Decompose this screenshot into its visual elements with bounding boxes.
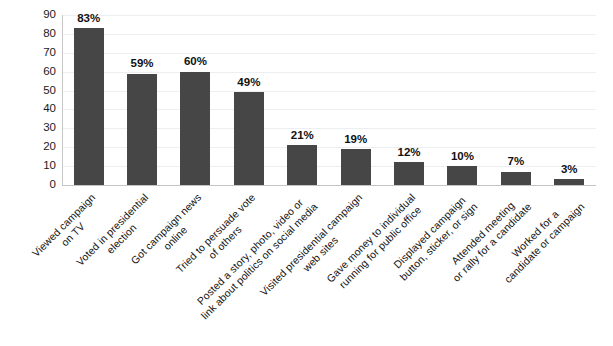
bar[interactable] xyxy=(234,92,264,185)
bar[interactable] xyxy=(180,72,210,185)
bar-group: 21% xyxy=(276,15,329,185)
x-axis-label-slot: Voted in presidentialelection xyxy=(115,189,168,190)
y-axis-tick-label: 40 xyxy=(10,104,56,116)
bar-value-label: 19% xyxy=(344,134,367,146)
x-axis-category-labels: Viewed campaignon TVVoted in presidentia… xyxy=(62,189,596,339)
x-axis-label-slot: Displayed campaignbutton, sticker, or si… xyxy=(436,189,489,190)
bar-group: 19% xyxy=(329,15,382,185)
bar[interactable] xyxy=(127,74,157,185)
bar-group: 10% xyxy=(436,15,489,185)
y-axis-tick-label: 50 xyxy=(10,85,56,97)
x-axis-label-slot: Got campaign newsonline xyxy=(169,189,222,190)
x-axis-label-slot: Worked for acandidate or campaign xyxy=(543,189,596,190)
bar-value-label: 7% xyxy=(508,156,525,168)
y-axis-tick-label: 80 xyxy=(10,28,56,40)
x-axis-label-slot: Visited presidential campaignweb sites xyxy=(329,189,382,190)
bar-value-label: 59% xyxy=(131,58,154,70)
y-axis-tick-label: 20 xyxy=(10,141,56,153)
y-axis-tick-label: 70 xyxy=(10,47,56,59)
x-axis-label-slot: Gave money to individualrunning for publ… xyxy=(382,189,435,190)
bar-value-label: 83% xyxy=(77,13,100,25)
y-axis-tick-labels: 9080706050403020100 xyxy=(0,15,56,185)
y-axis-tick-label: 60 xyxy=(10,66,56,78)
bar-value-label: 49% xyxy=(237,77,260,89)
y-axis-tick-label: 90 xyxy=(10,9,56,21)
bar-value-label: 10% xyxy=(451,151,474,163)
bars-layer: 83%59%60%49%21%19%12%10%7%3% xyxy=(62,15,596,185)
bar[interactable] xyxy=(287,145,317,185)
bar-chart: 9080706050403020100 83%59%60%49%21%19%12… xyxy=(0,0,613,346)
x-axis-label-slot: Tried to persuade voteof others xyxy=(222,189,275,190)
x-axis-label-slot: Posted a story, photo, video orlink abou… xyxy=(276,189,329,190)
bar-group: 7% xyxy=(489,15,542,185)
y-axis-tick-label: 30 xyxy=(10,123,56,135)
bar[interactable] xyxy=(341,149,371,185)
bar-value-label: 60% xyxy=(184,56,207,68)
bar-value-label: 12% xyxy=(398,147,421,159)
axis-baseline xyxy=(62,185,596,186)
x-axis-label-slot: Attended meetingor rally for a candidate xyxy=(489,189,542,190)
bar[interactable] xyxy=(554,179,584,185)
bar-value-label: 3% xyxy=(561,164,578,176)
bar-group: 60% xyxy=(169,15,222,185)
bar[interactable] xyxy=(447,166,477,185)
bar[interactable] xyxy=(501,172,531,185)
bar-value-label: 21% xyxy=(291,130,314,142)
bar-group: 49% xyxy=(222,15,275,185)
bar-group: 59% xyxy=(115,15,168,185)
bar-group: 83% xyxy=(62,15,115,185)
bar[interactable] xyxy=(74,28,104,185)
bar[interactable] xyxy=(394,162,424,185)
y-axis-tick-label: 0 xyxy=(10,179,56,191)
bar-group: 12% xyxy=(382,15,435,185)
y-axis-tick-label: 10 xyxy=(10,160,56,172)
x-axis-label-slot: Viewed campaignon TV xyxy=(62,189,115,190)
bar-group: 3% xyxy=(543,15,596,185)
